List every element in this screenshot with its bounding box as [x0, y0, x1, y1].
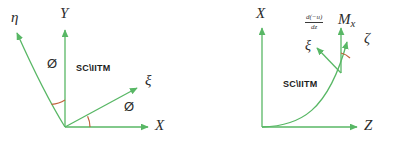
left-axis-label-y: Y [60, 6, 68, 21]
right-slope-expression: d(−u) dz [305, 14, 323, 32]
right-axis-label-mx-subscript: x [351, 17, 356, 29]
left-angle-arc-y-eta [52, 100, 65, 104]
right-axis-label-mx: Mx [338, 12, 355, 29]
right-axis-label-mx-base: M [338, 11, 351, 27]
left-angle-label-x-xi: Ø [124, 100, 134, 113]
left-angle-arc-x-xi [88, 116, 90, 127]
right-xi-axis-line [317, 48, 341, 73]
right-axis-label-z: Z [364, 118, 372, 133]
left-angle-label-y-eta: Ø [47, 57, 57, 70]
left-axis-label-eta: η [11, 10, 18, 25]
right-axis-label-xi: ξ [305, 39, 311, 53]
left-eta-axis-line [17, 33, 65, 127]
right-axis-label-zeta: ζ [364, 31, 370, 46]
slope-denominator: dz [305, 24, 323, 31]
left-axis-label-x: X [155, 118, 164, 133]
figure-canvas: η Y ξ X Ø Ø SC\IITM X Z ζ ξ Mx d(−u) dz … [0, 0, 399, 144]
right-watermark: SC\IITM [283, 80, 317, 89]
slope-numerator: d(−u) [305, 14, 323, 21]
right-axis-label-x: X [256, 6, 265, 21]
left-axis-label-xi: ξ [145, 73, 151, 88]
left-watermark: SC\IITM [76, 64, 110, 73]
